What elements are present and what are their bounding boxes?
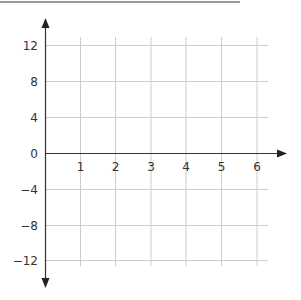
coordinate-plane: 12 8 4 0 −4 −8 −12 1 2 3 4 5 6 — [0, 0, 301, 300]
x-tick-label: 2 — [112, 160, 120, 174]
y-tick-label: 4 — [30, 111, 38, 125]
y-axis-arrow-up-icon — [42, 18, 50, 28]
y-tick-labels: 12 8 4 0 −4 −8 −12 — [13, 39, 38, 268]
x-tick-label: 5 — [218, 160, 226, 174]
y-tick-label: 8 — [30, 75, 38, 89]
y-tick-label: 12 — [23, 39, 38, 53]
x-tick-label: 1 — [77, 160, 85, 174]
x-tick-label: 4 — [182, 160, 190, 174]
x-tick-label: 6 — [253, 160, 261, 174]
x-tick-label: 3 — [147, 160, 155, 174]
x-tick-labels: 1 2 3 4 5 6 — [77, 160, 261, 174]
y-tick-label: 0 — [30, 147, 38, 161]
vertical-gridlines — [81, 37, 258, 266]
y-tick-label: −12 — [13, 254, 38, 268]
y-axis-arrow-down-icon — [42, 278, 50, 288]
x-axis-arrow-icon — [277, 150, 287, 158]
y-tick-label: −8 — [20, 219, 38, 233]
y-tick-label: −4 — [20, 183, 38, 197]
